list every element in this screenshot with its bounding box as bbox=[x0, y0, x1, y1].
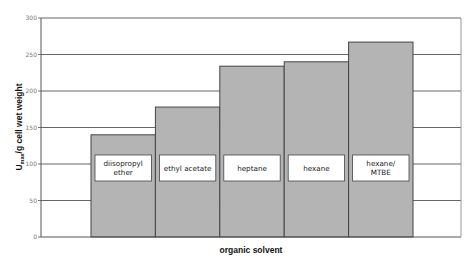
category-label: hexane/ bbox=[366, 159, 395, 168]
bar bbox=[220, 66, 284, 237]
bar bbox=[349, 42, 413, 237]
bar-group: hexane bbox=[284, 62, 348, 237]
bar bbox=[284, 62, 348, 237]
y-axis-ticks: 050100150200250300 bbox=[26, 14, 41, 240]
bar-group: hexane/MTBE bbox=[349, 42, 413, 237]
bar-chart: 050100150200250300 diisopropyletherethyl… bbox=[0, 0, 475, 266]
category-label: ether bbox=[114, 168, 133, 177]
y-axis-label: Umax/g cell wet weight bbox=[14, 83, 25, 170]
y-tick-label: 50 bbox=[29, 197, 37, 204]
category-label: diisopropyl bbox=[104, 159, 143, 168]
bar-group: heptane bbox=[220, 66, 284, 237]
bars: diisopropyletherethyl acetateheptanehexa… bbox=[91, 42, 413, 237]
bar bbox=[91, 135, 155, 237]
y-tick-label: 300 bbox=[26, 14, 38, 21]
bar-group: diisopropylether bbox=[91, 135, 155, 237]
y-tick-label: 100 bbox=[26, 160, 38, 167]
y-tick-label: 0 bbox=[33, 233, 37, 240]
y-tick-label: 200 bbox=[26, 87, 38, 94]
category-label: heptane bbox=[237, 164, 267, 173]
x-axis-label: organic solvent bbox=[220, 245, 283, 255]
y-tick-label: 250 bbox=[26, 51, 38, 58]
bar-group: ethyl acetate bbox=[155, 107, 219, 237]
category-label: ethyl acetate bbox=[164, 164, 212, 173]
category-label: MTBE bbox=[371, 168, 392, 177]
y-tick-label: 150 bbox=[26, 124, 38, 131]
category-label: hexane bbox=[303, 164, 330, 173]
